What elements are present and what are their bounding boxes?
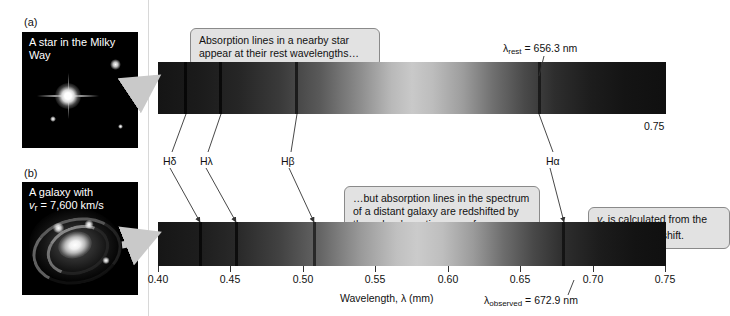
absorption-line-hbeta-shifted xyxy=(313,222,316,266)
galaxy-photo-caption: A galaxy with vr = 7,600 km/s xyxy=(29,186,104,215)
axis-tick-5 xyxy=(520,266,521,272)
axis-tick-label-0: 0.40 xyxy=(138,273,178,285)
absorption-line-hdelta xyxy=(184,62,187,114)
absorption-line-hgamma xyxy=(219,62,222,114)
lambda-observed-subscript: observed xyxy=(489,299,522,308)
leader-halpha-bottom xyxy=(550,168,564,222)
spectrum-star-right-tick-label: 0.75 xyxy=(644,120,664,132)
leader-hdelta-top xyxy=(172,114,186,152)
absorption-line-halpha xyxy=(538,62,541,114)
hydrogen-label-hbeta: Hβ xyxy=(281,155,295,167)
axis-tick-label-4: 0.60 xyxy=(428,273,468,285)
axis-title: Wavelength, λ (mm) xyxy=(340,292,434,304)
hydrogen-label-hgamma: Hλ xyxy=(200,155,213,167)
leader-hgamma-top xyxy=(208,114,221,152)
absorption-line-hbeta xyxy=(295,62,298,114)
axis-tick-6 xyxy=(593,266,594,272)
panel-b-label: (b) xyxy=(24,167,37,179)
leader-hbeta-top xyxy=(291,114,297,152)
guide-line-left xyxy=(148,0,149,316)
leader-hdelta-bottom xyxy=(170,168,200,222)
spectrum-star xyxy=(158,62,666,114)
lambda-rest-subscript: rest xyxy=(508,47,521,56)
axis-title-units: (mm) xyxy=(406,292,433,304)
star-faint2-icon xyxy=(118,124,123,129)
star-faint-icon xyxy=(50,116,56,122)
lambda-observed-value: = 672.9 nm xyxy=(522,294,578,306)
axis-tick-label-3: 0.55 xyxy=(355,273,395,285)
axis-tick-label-6: 0.70 xyxy=(573,273,613,285)
axis-tick-label-2: 0.50 xyxy=(283,273,323,285)
star-photo-caption: A star in the Milky Way xyxy=(29,36,138,62)
leader-hgamma-bottom xyxy=(206,168,236,222)
leader-halpha-top xyxy=(539,114,553,152)
axis-tick-1 xyxy=(230,266,231,272)
hydrogen-label-hdelta: Hδ xyxy=(163,155,176,167)
galaxy-caption-line1: A galaxy with xyxy=(29,186,93,198)
leader-hbeta-bottom xyxy=(289,168,314,222)
axis-tick-label-5: 0.65 xyxy=(500,273,540,285)
axis-title-prefix: Wavelength, xyxy=(340,292,401,304)
hydrogen-label-halpha: Hα xyxy=(546,155,560,167)
axis-tick-4 xyxy=(448,266,449,272)
lambda-observed-annotation: λobserved = 672.9 nm xyxy=(484,294,578,308)
absorption-line-halpha-shifted xyxy=(562,222,565,266)
panel-a-label: (a) xyxy=(24,16,37,28)
absorption-line-hdelta-shifted xyxy=(199,222,202,266)
star-photo: A star in the Milky Way xyxy=(22,32,138,148)
star-core xyxy=(55,83,81,109)
spectrum-galaxy xyxy=(158,222,666,266)
axis-tick-label-7: 0.75 xyxy=(645,273,685,285)
axis-tick-label-1: 0.45 xyxy=(210,273,250,285)
galaxy-caption-value: = 7,600 km/s xyxy=(38,199,104,211)
axis-tick-0 xyxy=(158,266,159,272)
galaxy-photo: A galaxy with vr = 7,600 km/s xyxy=(22,182,138,295)
lambda-rest-value: = 656.3 nm xyxy=(522,42,578,54)
galaxy-knot-3 xyxy=(102,257,110,264)
axis-tick-3 xyxy=(375,266,376,272)
galaxy-knot-2 xyxy=(84,220,94,229)
spectrum-star-gradient xyxy=(158,62,666,114)
galaxy-knot-1 xyxy=(52,223,65,233)
axis-tick-7 xyxy=(665,266,666,272)
axis-tick-2 xyxy=(303,266,304,272)
lambda-rest-annotation: λrest = 656.3 nm xyxy=(503,42,577,56)
absorption-line-hgamma-shifted xyxy=(235,222,238,266)
